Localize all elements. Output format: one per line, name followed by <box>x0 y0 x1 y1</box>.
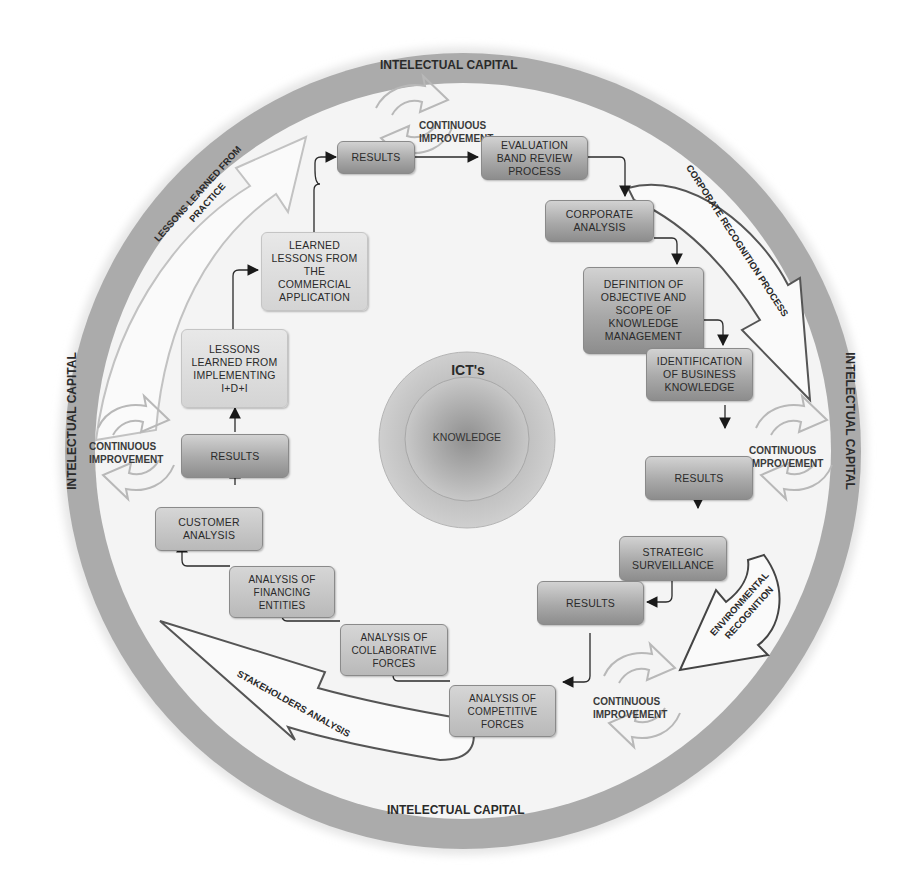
results-right-box: RESULTS <box>645 456 753 500</box>
continuous-improvement-bottom-label: CONTINUOUS IMPROVEMENT <box>593 695 667 721</box>
ring-label-left: INTELECTUAL CAPITAL <box>65 336 79 506</box>
results-top-box: RESULTS <box>337 141 415 174</box>
results-left-box: RESULTS <box>181 434 289 478</box>
strategic-surveillance-box: STRATEGIC SURVEILLANCE <box>619 536 727 581</box>
lessons-implementing-idi-box: LESSONS LEARNED FROM IMPLEMENTING I+D+I <box>181 329 288 408</box>
financing-entities-box: ANALYSIS OF FINANCING ENTITIES <box>229 566 335 618</box>
lessons-commercial-application-box: LEARNED LESSONS FROM THE COMMERCIAL APPL… <box>261 232 368 311</box>
ict-label: ICT's <box>438 362 498 378</box>
knowledge-management-cycle-diagram: INTELECTUAL CAPITAL INTELECTUAL CAPITAL … <box>0 0 919 873</box>
continuous-improvement-left-label: CONTINUOUS IMPROVEMENT <box>89 440 163 466</box>
evaluation-review-box: EVALUATION BAND REVIEW PROCESS <box>481 136 588 180</box>
ring-label-top: INTELECTUAL CAPITAL <box>380 58 518 72</box>
definition-objective-box: DEFINITION OF OBJECTIVE AND SCOPE OF KNO… <box>583 267 704 354</box>
knowledge-label: KNOWLEDGE <box>417 431 517 443</box>
ring-label-right: INTELECTUAL CAPITAL <box>843 336 857 506</box>
continuous-improvement-right-label: CONTINUOUS IMPROVEMENT <box>749 444 823 470</box>
results-bottom-box: RESULTS <box>537 581 644 625</box>
corporate-analysis-box: CORPORATE ANALYSIS <box>545 200 654 242</box>
identification-business-knowledge-box: IDENTIFICATION OF BUSINESS KNOWLEDGE <box>646 348 753 401</box>
collaborative-forces-box: ANALYSIS OF COLLABORATIVE FORCES <box>340 624 448 676</box>
competitive-forces-box: ANALYSIS OF COMPETITIVE FORCES <box>449 685 556 737</box>
customer-analysis-box: CUSTOMER ANALYSIS <box>155 507 263 551</box>
ring-label-bottom: INTELECTUAL CAPITAL <box>387 803 525 817</box>
